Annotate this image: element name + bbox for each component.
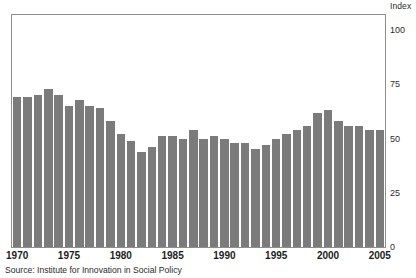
bar-slot bbox=[126, 15, 136, 247]
bar-slot bbox=[105, 15, 115, 247]
bar bbox=[210, 136, 218, 247]
bar-slot bbox=[64, 15, 74, 247]
bar-slot bbox=[53, 15, 63, 247]
bar bbox=[85, 106, 93, 247]
bar-slot bbox=[136, 15, 146, 247]
bar bbox=[344, 126, 352, 247]
bar-slot bbox=[364, 15, 374, 247]
bar bbox=[96, 108, 104, 247]
bar-slot bbox=[230, 15, 240, 247]
y-axis-tick-label: 100 bbox=[390, 25, 405, 35]
bar-slot bbox=[12, 15, 22, 247]
bar bbox=[54, 95, 62, 247]
bar-slot bbox=[261, 15, 271, 247]
bar-slot bbox=[157, 15, 167, 247]
bar bbox=[303, 126, 311, 247]
bar bbox=[324, 110, 332, 247]
bar bbox=[365, 130, 373, 247]
bar-slot bbox=[344, 15, 354, 247]
bar bbox=[241, 143, 249, 247]
bar-slot bbox=[354, 15, 364, 247]
bar-slot bbox=[33, 15, 43, 247]
bar bbox=[158, 136, 166, 247]
bar-slot bbox=[167, 15, 177, 247]
bar-slot bbox=[74, 15, 84, 247]
bar bbox=[334, 121, 342, 247]
bar-slot bbox=[333, 15, 343, 247]
bar-slot bbox=[292, 15, 302, 247]
bar bbox=[106, 121, 114, 247]
bar bbox=[272, 139, 280, 247]
bar-slot bbox=[271, 15, 281, 247]
bar bbox=[75, 100, 83, 247]
bar-slot bbox=[323, 15, 333, 247]
y-axis-unit-label: Index bbox=[390, 1, 411, 11]
bar-slot bbox=[219, 15, 229, 247]
x-axis-tick-label: 1980 bbox=[110, 250, 132, 262]
x-axis-tick-label: 2000 bbox=[317, 250, 339, 262]
bar bbox=[137, 152, 145, 247]
bar bbox=[189, 130, 197, 247]
x-axis-tick-label: 1970 bbox=[6, 250, 28, 262]
bar-slot bbox=[147, 15, 157, 247]
bar-slot bbox=[22, 15, 32, 247]
bar bbox=[13, 97, 21, 247]
x-axis-tick-label: 2005 bbox=[369, 250, 391, 262]
bar-slot bbox=[312, 15, 322, 247]
bar-slot bbox=[302, 15, 312, 247]
bar-series bbox=[12, 15, 385, 247]
bar bbox=[65, 106, 73, 247]
y-axis-tick-label: 50 bbox=[390, 134, 400, 144]
bar bbox=[44, 89, 52, 247]
y-axis-tick-label: 25 bbox=[390, 188, 400, 198]
bar bbox=[313, 113, 321, 247]
bar bbox=[34, 95, 42, 247]
bar bbox=[23, 97, 31, 247]
bar-slot bbox=[95, 15, 105, 247]
y-axis-tick-label: 75 bbox=[390, 79, 400, 89]
bar bbox=[355, 126, 363, 247]
bar-slot bbox=[43, 15, 53, 247]
bar-slot bbox=[178, 15, 188, 247]
x-axis-tick-label: 1995 bbox=[265, 250, 287, 262]
bar-slot bbox=[188, 15, 198, 247]
bar-slot bbox=[116, 15, 126, 247]
bar bbox=[293, 130, 301, 247]
x-axis-tick-label: 1975 bbox=[58, 250, 80, 262]
bar bbox=[199, 139, 207, 247]
index-bar-chart: Index 0255075100 19701975198019851990199… bbox=[0, 0, 416, 278]
bar bbox=[220, 139, 228, 247]
bar-slot bbox=[85, 15, 95, 247]
source-note: Source: Institute for Innovation in Soci… bbox=[5, 265, 182, 275]
bar bbox=[148, 147, 156, 247]
bar-slot bbox=[209, 15, 219, 247]
bar-slot bbox=[281, 15, 291, 247]
bar bbox=[376, 130, 384, 247]
x-axis-tick-label: 1990 bbox=[213, 250, 235, 262]
bar-slot bbox=[198, 15, 208, 247]
bar bbox=[282, 134, 290, 247]
bar bbox=[127, 141, 135, 247]
bar bbox=[117, 134, 125, 247]
bar bbox=[262, 145, 270, 247]
bar bbox=[251, 149, 259, 247]
bar bbox=[179, 139, 187, 247]
bar-slot bbox=[240, 15, 250, 247]
bar-slot bbox=[250, 15, 260, 247]
bar bbox=[230, 143, 238, 247]
bar bbox=[168, 136, 176, 247]
bar-slot bbox=[375, 15, 385, 247]
x-axis-tick-label: 1985 bbox=[161, 250, 183, 262]
